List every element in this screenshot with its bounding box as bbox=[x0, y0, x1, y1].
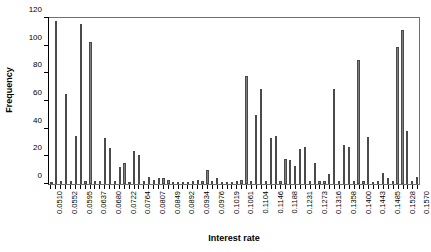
x-axis-tick-mark bbox=[363, 185, 364, 189]
x-axis-tick-mark bbox=[315, 185, 316, 189]
histogram-bar bbox=[123, 163, 125, 184]
x-axis-tick-mark bbox=[124, 185, 125, 189]
histogram-bar bbox=[294, 166, 296, 184]
histogram-bar bbox=[343, 145, 345, 184]
histogram-bar bbox=[192, 181, 194, 184]
histogram-bar bbox=[275, 136, 277, 184]
histogram-bar bbox=[177, 182, 179, 184]
histogram-bar bbox=[153, 180, 155, 184]
x-axis-tick-mark bbox=[134, 185, 135, 189]
histogram-bar bbox=[338, 181, 340, 184]
histogram-bar bbox=[201, 181, 203, 184]
x-axis-tick-mark bbox=[383, 185, 384, 189]
histogram-bar bbox=[309, 181, 311, 184]
x-axis-tick-mark bbox=[290, 185, 291, 189]
x-axis-tick-mark bbox=[407, 185, 408, 189]
x-axis-tick-mark bbox=[280, 185, 281, 189]
x-axis-label-slot: 0.1570 bbox=[415, 190, 420, 230]
x-axis-tick-mark bbox=[158, 185, 159, 189]
x-axis-tick-mark bbox=[129, 185, 130, 189]
x-axis-tick-mark bbox=[85, 185, 86, 189]
x-axis-tick-mark bbox=[344, 185, 345, 189]
histogram-bar bbox=[392, 181, 394, 184]
x-axis-tick-mark bbox=[197, 185, 198, 189]
histogram-bar bbox=[328, 174, 330, 184]
histogram-bar bbox=[143, 181, 145, 184]
histogram-bar bbox=[348, 147, 350, 184]
y-axis-tick-label: 40 bbox=[33, 115, 42, 124]
x-axis-tick-mark bbox=[334, 185, 335, 189]
x-axis-tick-mark bbox=[359, 185, 360, 189]
histogram-bar bbox=[245, 76, 247, 184]
histogram-bar bbox=[158, 178, 160, 184]
histogram-bar bbox=[372, 182, 374, 184]
histogram-bar bbox=[138, 155, 140, 184]
x-axis-tick-mark bbox=[109, 185, 110, 189]
x-axis-title: Interest rate bbox=[48, 233, 420, 243]
histogram-bar bbox=[406, 131, 408, 184]
histogram-bar bbox=[353, 181, 355, 184]
x-axis-tick-mark bbox=[329, 185, 330, 189]
x-axis-tick-mark bbox=[261, 185, 262, 189]
x-axis-tick-mark bbox=[60, 185, 61, 189]
x-axis-tick-mark bbox=[138, 185, 139, 189]
x-axis-tick-mark bbox=[339, 185, 340, 189]
x-axis-tick-mark bbox=[266, 185, 267, 189]
histogram-bar bbox=[197, 180, 199, 184]
x-axis-tick-mark bbox=[246, 185, 247, 189]
histogram-bar bbox=[318, 181, 320, 184]
x-axis-tick-label: 0.1570 bbox=[422, 191, 431, 214]
histogram-bar bbox=[211, 181, 213, 184]
histogram-bar bbox=[109, 148, 111, 184]
x-axis-tick-mark bbox=[168, 185, 169, 189]
x-axis-tick-mark bbox=[65, 185, 66, 189]
x-axis-tick-mark bbox=[99, 185, 100, 189]
histogram-bar bbox=[236, 181, 238, 184]
x-axis-tick-mark bbox=[349, 185, 350, 189]
y-axis-tick bbox=[44, 17, 49, 18]
histogram-bar bbox=[182, 182, 184, 184]
histogram-bar bbox=[387, 178, 389, 184]
plot-area: 020406080100120 bbox=[48, 17, 420, 185]
x-axis-tick-mark bbox=[104, 185, 105, 189]
histogram-bar bbox=[367, 137, 369, 184]
x-axis-tick-labels: 0.05100.05520.05950.06370.06800.07220.07… bbox=[48, 190, 420, 230]
x-axis-tick-mark bbox=[212, 185, 213, 189]
histogram-bar bbox=[231, 182, 233, 184]
y-axis-tick-label: 100 bbox=[29, 32, 42, 41]
histogram-bar bbox=[119, 167, 121, 184]
x-axis-tick-mark bbox=[114, 185, 115, 189]
y-axis-tick-label: 0 bbox=[38, 171, 42, 180]
y-axis-tick bbox=[44, 72, 49, 73]
histogram-bar bbox=[162, 178, 164, 184]
x-axis-tick-mark bbox=[70, 185, 71, 189]
histogram-bar bbox=[333, 89, 335, 184]
x-axis-tick-mark bbox=[202, 185, 203, 189]
x-axis-tick-mark bbox=[412, 185, 413, 189]
x-axis-tick-mark bbox=[319, 185, 320, 189]
histogram-bar bbox=[148, 177, 150, 184]
x-axis-tick-mark bbox=[354, 185, 355, 189]
histogram-bar bbox=[299, 149, 301, 184]
x-axis-tick-mark bbox=[241, 185, 242, 189]
histogram-bar bbox=[55, 21, 57, 184]
histogram-bar bbox=[187, 182, 189, 184]
x-axis-tick-mark bbox=[256, 185, 257, 189]
y-axis-tick-label: 120 bbox=[29, 5, 42, 14]
histogram-bar bbox=[401, 30, 403, 184]
histogram-bar bbox=[382, 173, 384, 184]
histogram-bar bbox=[265, 181, 267, 184]
x-axis-tick-mark bbox=[368, 185, 369, 189]
x-axis-tick-mark bbox=[55, 185, 56, 189]
x-axis-tick-mark bbox=[182, 185, 183, 189]
x-axis-tick-mark bbox=[417, 185, 418, 189]
histogram-bar bbox=[206, 170, 208, 184]
x-axis-tick-mark bbox=[192, 185, 193, 189]
y-axis-tick-label: 80 bbox=[33, 60, 42, 69]
x-axis-tick-mark bbox=[373, 185, 374, 189]
x-axis-tick-mark bbox=[275, 185, 276, 189]
x-axis-tick-mark bbox=[148, 185, 149, 189]
histogram-bar bbox=[284, 159, 286, 184]
histogram-bar bbox=[75, 136, 77, 184]
